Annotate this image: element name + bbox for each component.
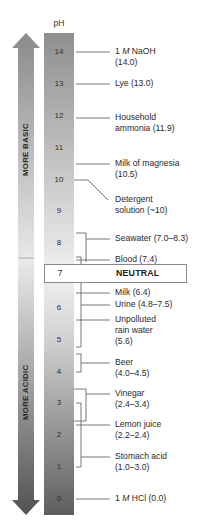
substance-vinegar: Vinegar (2.4–3.4) (115, 388, 149, 410)
substance-seawater: Seawater (7.0–8.3) (115, 233, 188, 244)
ph-tick-1: 1 (44, 462, 74, 471)
ph-tick-2: 2 (44, 430, 74, 439)
substance-milk-of-magnesia: Milk of magnesia (10.5) (115, 158, 179, 180)
ph-tick-11: 11 (44, 143, 74, 152)
substance-hcl: 1 M HCl (0.0) (115, 493, 166, 504)
ph-tick-3: 3 (44, 398, 74, 407)
substance-detergent: Detergent solution (~10) (115, 194, 167, 216)
substance-urine: Urine (4.8–7.5) (115, 299, 172, 310)
ph-tick-12: 12 (44, 111, 74, 120)
substance-lye: Lye (13.0) (115, 78, 153, 89)
substance-lemon-juice: Lemon juice (2.2–2.4) (115, 419, 161, 441)
substance-beer: Beer (4.0–4.5) (115, 357, 149, 379)
ph-scale-diagram: pH 14 13 12 11 10 9 8 6 5 4 3 2 1 0 7 NE… (0, 0, 202, 529)
ph-axis-header: pH (44, 18, 74, 28)
neutral-marker: 7 NEUTRAL (44, 264, 187, 283)
more-basic-label: MORE BASIC (21, 123, 30, 176)
more-acidic-label: MORE ACIDIC (21, 365, 30, 420)
substance-milk: Milk (6.4) (115, 287, 150, 298)
ph-tick-10: 10 (44, 175, 74, 184)
ph-tick-5: 5 (44, 335, 74, 344)
ph-tick-13: 13 (44, 79, 74, 88)
ph-tick-8: 8 (44, 238, 74, 247)
ph-tick-9: 9 (44, 206, 74, 215)
substance-rain-water: Unpolluted rain water (5.6) (115, 314, 156, 347)
ph-tick-7: 7 (45, 268, 75, 278)
substance-stomach-acid: Stomach acid (1.0–3.0) (115, 451, 167, 473)
substance-blood: Blood (7.4) (115, 254, 157, 265)
substance-household-ammonia: Household ammonia (11.9) (115, 112, 175, 134)
ph-tick-14: 14 (44, 47, 74, 56)
substance-naoh: 1 M NaOH (14.0) (115, 46, 156, 68)
neutral-label: NEUTRAL (116, 268, 159, 278)
ph-tick-4: 4 (44, 367, 74, 376)
ph-tick-0: 0 (44, 494, 74, 503)
ph-tick-6: 6 (44, 303, 74, 312)
